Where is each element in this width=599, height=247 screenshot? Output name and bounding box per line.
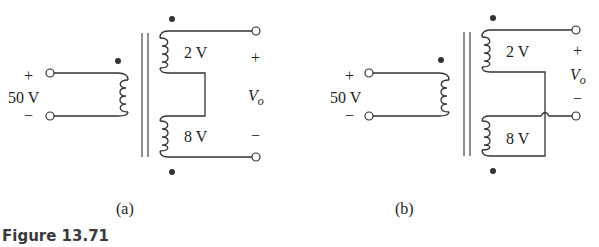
source-minus-label: −	[345, 107, 354, 124]
output-plus-terminal	[572, 26, 580, 34]
top-secondary-coil-icon	[482, 37, 490, 67]
source-plus-label: +	[345, 67, 354, 84]
top-polarity-dot	[169, 16, 175, 22]
source-minus-label: −	[24, 107, 33, 124]
top-secondary-coil-icon	[160, 38, 168, 68]
primary-polarity-dot	[438, 57, 444, 63]
bottom-secondary-coil-icon	[482, 121, 490, 150]
bottom-polarity-dot	[490, 168, 496, 174]
bottom-winding-label: 8 V	[184, 128, 208, 145]
output-minus-terminal	[252, 153, 260, 161]
bottom-winding-label: 8 V	[506, 130, 530, 147]
output-voltage-label: Vo	[570, 66, 586, 87]
source-minus-terminal	[365, 112, 373, 120]
primary-coil-icon	[441, 80, 449, 112]
panel-b: + 50 V − 2 V 8 V + Vo − (b)	[330, 15, 586, 218]
figure-caption: Figure 13.71	[2, 227, 109, 245]
output-voltage-label: Vo	[248, 87, 264, 108]
panel-a: + 50 V − 2 V 8 V + Vo − (a)	[8, 16, 264, 218]
panel-label: (a)	[116, 200, 134, 218]
bottom-secondary-coil-icon	[160, 121, 168, 151]
source-value-label: 50 V	[8, 89, 40, 106]
figure-13-71: + 50 V − 2 V 8 V + Vo − (a) + 50 V	[0, 0, 599, 247]
primary-polarity-dot	[115, 58, 121, 64]
output-plus-terminal	[252, 27, 260, 35]
output-plus-label: +	[251, 49, 260, 66]
source-value-label: 50 V	[330, 89, 362, 106]
source-plus-label: +	[24, 67, 33, 84]
top-winding-label: 2 V	[506, 43, 530, 60]
top-winding-label: 2 V	[184, 44, 208, 61]
source-minus-terminal	[46, 112, 54, 120]
output-plus-label: +	[573, 42, 582, 59]
bottom-polarity-dot	[169, 169, 175, 175]
output-minus-label: −	[251, 127, 260, 144]
top-polarity-dot	[490, 15, 496, 21]
output-minus-label: −	[573, 90, 582, 107]
output-minus-terminal	[572, 112, 580, 120]
source-plus-terminal	[46, 69, 54, 77]
primary-coil-icon	[120, 80, 128, 112]
panel-label: (b)	[395, 200, 414, 218]
source-plus-terminal	[365, 69, 373, 77]
